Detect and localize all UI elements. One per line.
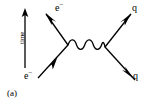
incoming-electron-arrowhead	[48, 57, 58, 70]
photon-propagator-wavy-line	[68, 40, 105, 49]
outgoing-quark-label: q	[132, 3, 137, 13]
figure-caption: (a)	[7, 89, 17, 98]
incoming-electron-line	[38, 45, 68, 78]
incoming-electron-label: e−	[24, 71, 32, 81]
outgoing-quark-arrowhead	[120, 14, 131, 26]
incoming-quark-label: q	[133, 71, 138, 81]
incoming-electron-charge: −	[28, 69, 32, 77]
outgoing-electron-label: e−	[55, 3, 63, 13]
time-axis-label: time	[19, 32, 26, 44]
feynman-diagram-figure: e− q e− q time (a)	[0, 0, 145, 105]
outgoing-electron-arrowhead	[46, 13, 57, 25]
outgoing-electron-charge: −	[59, 1, 63, 9]
feynman-diagram-canvas	[0, 0, 145, 105]
